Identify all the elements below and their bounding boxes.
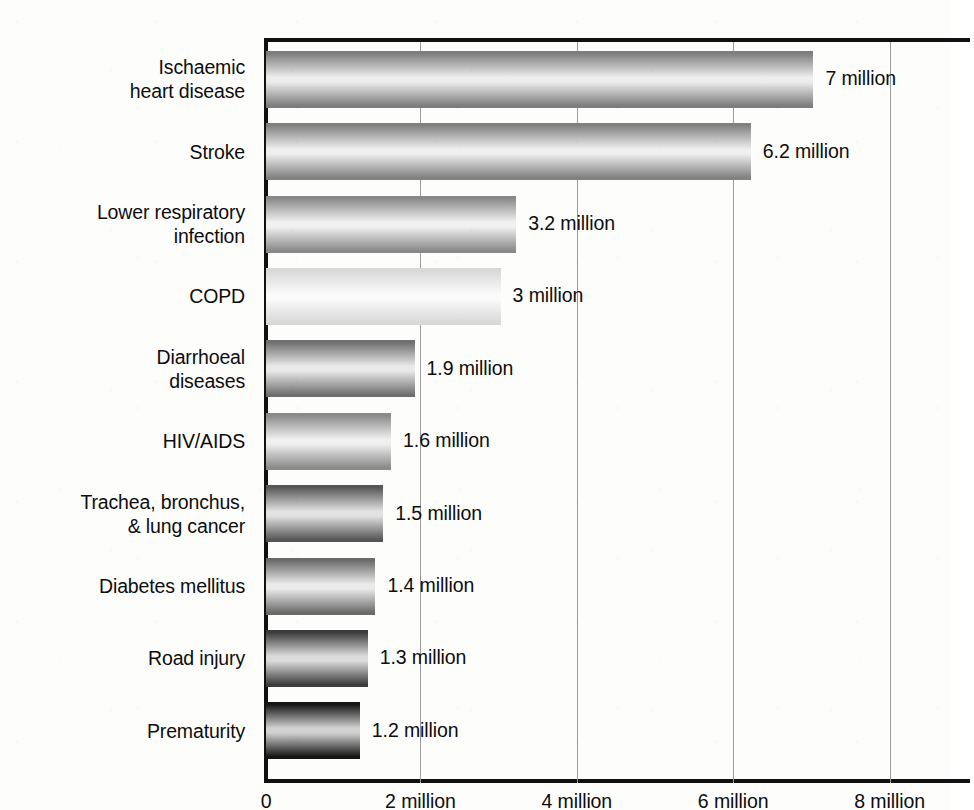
bar-row: 6.2 million [264,123,970,180]
category-label-2: Lower respiratory infection [97,200,245,248]
bar-6[interactable] [266,485,383,542]
bar-7[interactable] [266,558,375,615]
bar-value-label: 3.2 million [528,214,615,234]
tick-label-8m: 8 million [854,792,925,810]
bar-value-label: 6.2 million [763,142,850,162]
category-label-1: Stroke [190,140,245,164]
bar-row: 1.2 million [264,702,970,759]
bar-row: 1.4 million [264,558,970,615]
category-label-4: Diarrhoeal diseases [157,345,245,393]
bar-2[interactable] [266,196,516,253]
category-label-0: Ischaemic heart disease [130,55,245,103]
bar-row: 3 million [264,268,970,325]
plot-area: 7 million6.2 million3.2 million3 million… [264,38,970,783]
bar-row: 3.2 million [264,196,970,253]
category-label-5: HIV/AIDS [163,429,245,453]
category-label-3: COPD [189,284,245,308]
bar-value-label: 1.9 million [427,359,514,379]
tick-label-4m: 4 million [541,792,612,810]
bar-value-label: 1.5 million [395,504,482,524]
bar-value-label: 1.4 million [387,576,474,596]
bar-4[interactable] [266,340,415,397]
bar-value-label: 1.3 million [380,649,467,669]
bar-3[interactable] [266,268,501,325]
bar-row: 1.6 million [264,413,970,470]
tick-label-2m: 2 million [385,792,456,810]
axis-top-line [264,38,970,42]
bar-9[interactable] [266,702,360,759]
tick-label-6m: 6 million [698,792,769,810]
bar-1[interactable] [266,123,751,180]
category-label-8: Road injury [148,646,245,670]
bar-value-label: 1.6 million [403,431,490,451]
tick-label-0m: 0 [261,792,272,810]
category-label-6: Trachea, bronchus, & lung cancer [80,490,245,538]
bar-8[interactable] [266,630,368,687]
bar-row: 7 million [264,51,970,108]
bar-value-label: 3 million [513,287,584,307]
bar-0[interactable] [266,51,813,108]
category-label-7: Diabetes mellitus [99,574,245,598]
bar-row: 1.9 million [264,340,970,397]
horizontal-bar-chart: Ischaemic heart diseaseStrokeLower respi… [40,16,974,810]
bar-row: 1.3 million [264,630,970,687]
axis-bottom-line [264,779,970,783]
bar-5[interactable] [266,413,391,470]
category-label-9: Prematurity [147,719,245,743]
bar-row: 1.5 million [264,485,970,542]
bar-value-label: 1.2 million [372,721,459,741]
bar-value-label: 7 million [825,69,896,89]
